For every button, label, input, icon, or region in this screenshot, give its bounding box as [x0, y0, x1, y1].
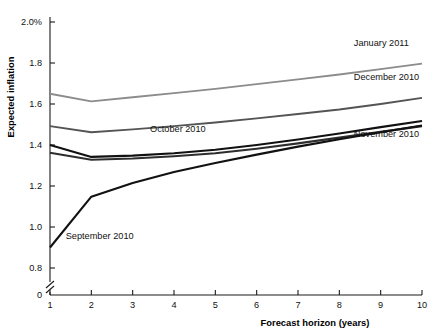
y-tick-label: 1.8	[29, 58, 42, 68]
series-label-october-2010: October 2010	[150, 124, 206, 134]
series-line-december-2010	[50, 98, 422, 132]
x-tick-label: 2	[89, 300, 94, 310]
series-line-january-2011	[50, 64, 422, 102]
series-label-january-2011: January 2011	[354, 38, 409, 48]
y-tick-label: 1.2	[29, 181, 42, 191]
y-tick-label: 1.6	[29, 99, 42, 109]
x-tick-label: 5	[213, 300, 218, 310]
x-tick-label: 4	[171, 300, 176, 310]
y-tick-label: 0	[37, 290, 42, 300]
x-tick-label: 1	[47, 300, 52, 310]
chart-canvas: 00.81.01.21.41.61.82.0%12345678910Januar…	[0, 0, 435, 332]
y-tick-label: 1.0	[29, 222, 42, 232]
series-label-december-2010: December 2010	[354, 72, 419, 82]
x-tick-label: 10	[417, 300, 427, 310]
x-axis-title: Forecast horizon (years)	[261, 317, 370, 328]
y-axis-title: Expected inflation	[5, 56, 16, 137]
y-tick-label: 2.0%	[21, 17, 42, 27]
series-line-september-2010	[50, 126, 422, 248]
x-tick-label: 7	[295, 300, 300, 310]
series-label-september-2010: September 2010	[66, 231, 134, 241]
series-label-november-2010: November 2010	[354, 129, 419, 139]
y-tick-label: 1.4	[29, 140, 42, 150]
y-tick-label: 0.8	[29, 263, 42, 273]
x-tick-label: 9	[378, 300, 383, 310]
inflation-forecast-chart: 00.81.01.21.41.61.82.0%12345678910Januar…	[0, 0, 435, 332]
x-tick-label: 8	[337, 300, 342, 310]
x-tick-label: 3	[130, 300, 135, 310]
x-tick-label: 6	[254, 300, 259, 310]
